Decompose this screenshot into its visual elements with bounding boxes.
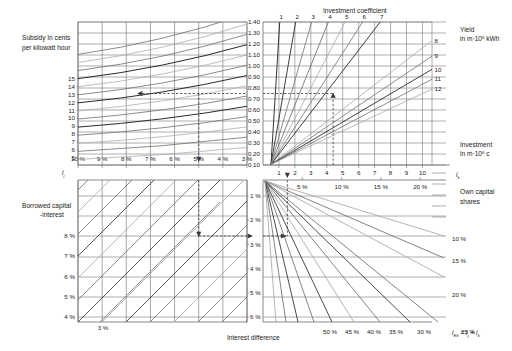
formula-iek: iEk = ij + ik xyxy=(452,329,481,338)
bottom-tick-label: 30 % xyxy=(417,328,432,335)
subsidy-curve-4 xyxy=(78,117,247,136)
x-tick-label: 8 xyxy=(389,169,393,176)
y-tick-label: 1.30 xyxy=(248,29,261,36)
y-tick-label: 1.40 xyxy=(248,18,261,25)
diagonal-line-b-5 xyxy=(198,180,340,322)
own-capital-ray-3 xyxy=(265,181,444,277)
y-tick-label-right: 4 % xyxy=(250,265,261,272)
top-tick-label: 15 % xyxy=(374,183,389,190)
diagonal-line-b-7 xyxy=(246,180,388,322)
ray-label-right: 9 xyxy=(435,52,439,59)
x-tick-label-3pct: 3 % xyxy=(98,324,109,331)
y-tick-label: 0.70 xyxy=(248,95,261,102)
y-tick-label: 0.10 xyxy=(248,161,261,168)
subsidy-tick-label: 5 xyxy=(72,154,76,161)
y-tick-label-right: 6 % xyxy=(250,313,261,320)
panel-title-investment-coefficient: Investment coefficient xyxy=(323,7,387,14)
ray-label-right: 12 xyxy=(435,85,442,92)
subsidy-tick-label: 9 xyxy=(72,122,76,129)
nomogram-figure: 1.401.301.201.101.000.900.800.700.600.50… xyxy=(0,0,512,351)
top-tick-label: 20 % xyxy=(413,183,428,190)
x-tick-label: 1 xyxy=(277,169,281,176)
subsidy-curve-14 xyxy=(78,14,247,55)
subsidy-tick-label: 12 xyxy=(68,99,75,106)
ray-label-top: 7 xyxy=(380,13,384,20)
y-tick-label: 1.10 xyxy=(248,51,261,58)
y-tick-label-left: 4 % xyxy=(64,313,75,320)
y-tick-label: 1.00 xyxy=(248,62,261,69)
ray-label-right: 8 xyxy=(435,37,439,44)
y-tick-label-right: 3 % xyxy=(250,241,261,248)
x-tick-label: 8 % xyxy=(121,155,132,162)
subsidy-tick-label: 15 xyxy=(68,75,75,82)
own-capital-ray-10 xyxy=(265,181,298,322)
yield-caption-line2: in m·106 kWh xyxy=(460,35,500,42)
x-tick-label: 3 xyxy=(309,169,313,176)
own-capital-caption-line2: shares xyxy=(460,198,480,205)
x-tick-label: 2 xyxy=(293,169,297,176)
y-tick-label: 0.80 xyxy=(248,84,261,91)
own-capital-share-label: 20 % xyxy=(452,291,467,298)
subsidy-tick-label: 8 xyxy=(72,130,76,137)
own-capital-ray-8 xyxy=(265,181,332,322)
y-tick-label-left: 8 % xyxy=(64,232,75,239)
ray-label-top: 6 xyxy=(362,13,366,20)
investment-caption-line1: Investment xyxy=(460,141,492,148)
subsidy-curve-13 xyxy=(78,24,247,62)
y-tick-label-left: 7 % xyxy=(64,252,75,259)
interest-difference-caption: Interest difference xyxy=(227,334,280,341)
ray-label-top: 1 xyxy=(280,13,284,20)
own-capital-ray-2 xyxy=(265,181,444,258)
x-tick-label: 7 xyxy=(373,169,377,176)
diagonal-line-b-4 xyxy=(174,180,316,322)
y-tick-label: 0.30 xyxy=(248,139,261,146)
own-capital-ray-9 xyxy=(265,181,314,322)
y-tick-label: 1.20 xyxy=(248,40,261,47)
x-tick-label: 5 xyxy=(341,169,345,176)
y-tick-label-right: 5 % xyxy=(250,289,261,296)
bottom-tick-label: 40 % xyxy=(367,328,382,335)
borrowed-caption-line1: Borrowed capital xyxy=(22,202,72,210)
top-tick-label: 10 % xyxy=(335,183,350,190)
bottom-tick-label: 50 % xyxy=(323,328,338,335)
nomogram-svg: 1.401.301.201.101.000.900.800.700.600.50… xyxy=(0,0,512,351)
ray-label-top: 2 xyxy=(295,13,299,20)
y-tick-label: 0.50 xyxy=(248,117,261,124)
x-tick-label: 6 xyxy=(357,169,361,176)
subsidy-tick-label: 7 xyxy=(72,138,76,145)
ray-label-top: 4 xyxy=(328,13,332,20)
subsidy-tick-label: 11 xyxy=(69,107,76,114)
axis-label-ij: ij xyxy=(62,169,65,178)
top-tick-label: 5 % xyxy=(297,183,308,190)
x-tick-label: 9 xyxy=(405,169,409,176)
x-tick-label: 4 xyxy=(325,169,329,176)
y-tick-label: 0.90 xyxy=(248,73,261,80)
quadrant-top-left: 10 %9 %8 %7 %6 %5 %4 %3 %151413121110987… xyxy=(22,14,253,178)
own-capital-ray-12 xyxy=(265,181,276,322)
ray-label-right: 11 xyxy=(435,75,442,82)
subsidy-tick-label: 6 xyxy=(72,146,76,153)
investment-caption-line2: in m·106 c xyxy=(460,150,490,157)
ray-label-top: 5 xyxy=(345,13,349,20)
y-tick-label: 0.60 xyxy=(248,106,261,113)
x-tick-label: 6 % xyxy=(169,155,180,162)
subsidy-curve-7 xyxy=(78,86,247,111)
bottom-tick-label: 45 % xyxy=(345,328,360,335)
yield-caption-line1: Yield xyxy=(460,26,475,33)
arrowhead-up-br xyxy=(285,173,290,178)
x-tick-label: 10 xyxy=(419,169,426,176)
subsidy-tick-label: 10 xyxy=(68,114,75,121)
x-tick-label: 4 % xyxy=(218,155,229,162)
ray-label-top: 3 xyxy=(311,13,315,20)
subsidy-curve-3 xyxy=(78,127,247,143)
own-capital-ray-5 xyxy=(265,181,410,322)
subsidy-curve-6 xyxy=(78,96,247,119)
own-capital-ray-6 xyxy=(265,181,380,322)
subsidy-caption-line2: per kilowatt hour xyxy=(22,44,71,52)
y-tick-label: 0.40 xyxy=(248,128,261,135)
y-tick-label-right: 2 % xyxy=(250,216,261,223)
y-tick-label-right: 1 % xyxy=(250,192,261,199)
own-capital-ray-7 xyxy=(265,181,354,322)
subsidy-caption-line1: Subsidy In cents xyxy=(22,34,71,42)
quadrant-bottom-right: 5 %10 %15 %20 %Own capitalshares10 %15 %… xyxy=(263,177,495,338)
